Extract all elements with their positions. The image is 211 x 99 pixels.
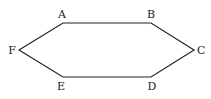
hexagon-shape <box>19 23 194 77</box>
vertex-label-b: B <box>147 8 155 21</box>
vertex-label-f: F <box>8 44 16 57</box>
vertex-label-c: C <box>197 44 205 57</box>
vertex-label-d: D <box>148 80 157 93</box>
hexagon-diagram: A B C D E F <box>0 0 211 99</box>
vertex-label-a: A <box>57 8 67 21</box>
vertex-label-e: E <box>57 80 65 93</box>
